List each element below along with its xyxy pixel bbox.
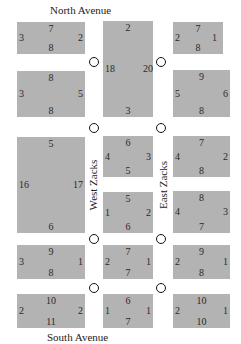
- block-value-bottom: 5: [103, 166, 153, 176]
- city-block-M1[interactable]: 2 18 20 3: [103, 21, 153, 117]
- block-value-right: 20: [143, 64, 153, 74]
- block-value-top: 6: [103, 138, 153, 148]
- north-avenue-label: North Avenue: [50, 4, 111, 16]
- block-value-left: 5: [175, 89, 180, 99]
- block-value-left: 3: [19, 257, 24, 267]
- block-value-left: 3: [19, 33, 24, 43]
- block-value-right: 1: [78, 257, 83, 267]
- block-value-left: 2: [105, 257, 110, 267]
- city-block-R6[interactable]: 10 2 1 10: [173, 294, 230, 328]
- south-avenue-label: South Avenue: [47, 331, 108, 343]
- intersection-circle-1[interactable]: [89, 57, 99, 67]
- west-zacks-label: West Zacks: [87, 155, 99, 215]
- block-value-top: 5: [17, 139, 85, 149]
- block-value-top: 9: [17, 247, 85, 257]
- block-value-left: 1: [105, 306, 110, 316]
- block-value-top: 2: [103, 23, 153, 33]
- block-value-right: 1: [223, 306, 228, 316]
- block-value-bottom: 8: [173, 43, 223, 53]
- block-value-top: 7: [173, 138, 230, 148]
- block-value-right: 17: [73, 180, 83, 190]
- intersection-circle-3[interactable]: [89, 123, 99, 133]
- block-value-right: 2: [146, 208, 151, 218]
- block-value-bottom: 8: [173, 268, 230, 278]
- block-value-top: 10: [17, 296, 85, 306]
- intersection-circle-8[interactable]: [156, 283, 166, 293]
- east-zacks-label: East Zacks: [157, 155, 169, 215]
- block-value-right: 2: [223, 152, 228, 162]
- city-block-M5[interactable]: 6 1 1 7: [103, 294, 153, 328]
- block-value-top: 8: [17, 73, 85, 83]
- block-value-right: 3: [223, 207, 228, 217]
- city-block-L3[interactable]: 5 16 17 6: [17, 137, 85, 233]
- block-value-top: 10: [173, 296, 230, 306]
- intersection-circle-6[interactable]: [156, 234, 166, 244]
- block-value-top: 7: [17, 24, 85, 34]
- block-value-bottom: 8: [173, 166, 230, 176]
- block-value-right: 2: [78, 306, 83, 316]
- block-value-bottom: 8: [17, 43, 85, 53]
- block-value-right: 2: [78, 33, 83, 43]
- block-value-bottom: 7: [173, 222, 230, 232]
- city-block-R2[interactable]: 9 5 6 8: [173, 70, 230, 117]
- block-value-right: 3: [146, 152, 151, 162]
- intersection-circle-4[interactable]: [156, 123, 166, 133]
- block-value-bottom: 8: [17, 106, 85, 116]
- city-block-R3[interactable]: 7 4 2 8: [173, 136, 230, 177]
- city-block-L1[interactable]: 7 3 2 8: [17, 22, 85, 54]
- block-value-bottom: 7: [103, 317, 153, 327]
- block-value-left: 4: [175, 152, 180, 162]
- block-value-right: 1: [146, 306, 151, 316]
- block-value-left: 3: [19, 89, 24, 99]
- block-value-top: 5: [103, 194, 153, 204]
- block-value-bottom: 7: [103, 268, 153, 278]
- city-block-R1[interactable]: 7 2 1 8: [173, 22, 223, 54]
- block-value-right: 5: [78, 89, 83, 99]
- block-value-left: 2: [19, 306, 24, 316]
- block-value-right: 1: [223, 257, 228, 267]
- city-block-R4[interactable]: 8 4 3 7: [173, 191, 230, 233]
- block-value-top: 9: [173, 72, 230, 82]
- intersection-circle-7[interactable]: [89, 283, 99, 293]
- block-value-left: 16: [19, 180, 29, 190]
- city-block-R5[interactable]: 9 2 1 8: [173, 245, 230, 279]
- block-value-right: 1: [146, 257, 151, 267]
- block-value-bottom: 8: [17, 268, 85, 278]
- block-value-top: 8: [173, 193, 230, 203]
- block-value-left: 4: [105, 152, 110, 162]
- block-value-bottom: 10: [173, 317, 230, 327]
- city-block-M3[interactable]: 5 1 2 6: [103, 192, 153, 233]
- block-value-left: 2: [175, 306, 180, 316]
- block-value-bottom: 6: [17, 222, 85, 232]
- block-value-bottom: 6: [103, 222, 153, 232]
- block-value-left: 4: [175, 207, 180, 217]
- city-block-L2[interactable]: 8 3 5 8: [17, 71, 85, 117]
- block-value-left: 1: [105, 208, 110, 218]
- city-block-M2[interactable]: 6 4 3 5: [103, 136, 153, 177]
- city-block-L5[interactable]: 10 2 2 11: [17, 294, 85, 328]
- intersection-circle-5[interactable]: [89, 234, 99, 244]
- city-block-M4[interactable]: 7 2 1 7: [103, 245, 153, 279]
- block-value-right: 6: [223, 89, 228, 99]
- block-value-left: 2: [175, 33, 180, 43]
- block-value-left: 18: [105, 64, 115, 74]
- block-value-right: 1: [212, 33, 217, 43]
- block-value-bottom: 8: [173, 106, 230, 116]
- block-value-left: 2: [175, 257, 180, 267]
- intersection-circle-2[interactable]: [156, 57, 166, 67]
- block-value-bottom: 3: [103, 106, 153, 116]
- block-value-top: 9: [173, 247, 230, 257]
- block-value-bottom: 11: [17, 317, 85, 327]
- city-block-L4[interactable]: 9 3 1 8: [17, 245, 85, 279]
